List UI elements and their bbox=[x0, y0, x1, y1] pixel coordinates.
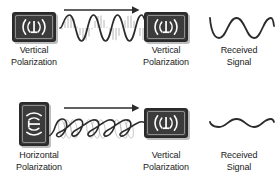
diagram-row-mismatched-polarization: Horizontal Polarization bbox=[0, 90, 278, 180]
received-signal-caption: Received Signal bbox=[200, 150, 278, 173]
propagating-wave-helical bbox=[48, 112, 148, 150]
caption-line-2: Polarization bbox=[132, 57, 200, 69]
transmitter-caption-horizontal: Horizontal Polarization bbox=[0, 150, 78, 173]
antenna-vertical-icon bbox=[12, 12, 56, 42]
received-signal-wave-weak bbox=[208, 115, 274, 135]
transmitter-caption-vertical: Vertical Polarization bbox=[0, 45, 68, 68]
propagating-wave-vertical-polarized bbox=[60, 13, 146, 47]
caption-line-2: Signal bbox=[200, 57, 278, 69]
caption-line-2: Polarization bbox=[132, 162, 200, 174]
caption-line-1: Horizontal bbox=[0, 150, 78, 162]
antenna-vertical-icon bbox=[144, 108, 188, 138]
caption-line-1: Received bbox=[200, 45, 278, 57]
polarization-diagram: Vertical Polarization bbox=[0, 0, 278, 180]
caption-line-2: Polarization bbox=[0, 162, 78, 174]
antenna-vertical-icon bbox=[144, 12, 188, 42]
caption-line-1: Vertical bbox=[132, 150, 200, 162]
caption-line-1: Received bbox=[200, 150, 278, 162]
caption-line-1: Vertical bbox=[132, 45, 200, 57]
caption-line-2: Signal bbox=[200, 162, 278, 174]
diagram-row-matched-polarization: Vertical Polarization bbox=[0, 0, 278, 90]
caption-line-2: Polarization bbox=[0, 57, 68, 69]
caption-line-1: Vertical bbox=[0, 45, 68, 57]
received-signal-wave-strong bbox=[208, 14, 274, 46]
received-signal-caption: Received Signal bbox=[200, 45, 278, 68]
antenna-horizontal-icon bbox=[19, 102, 49, 146]
receiver-caption-vertical: Vertical Polarization bbox=[132, 150, 200, 173]
receiver-caption-vertical: Vertical Polarization bbox=[132, 45, 200, 68]
